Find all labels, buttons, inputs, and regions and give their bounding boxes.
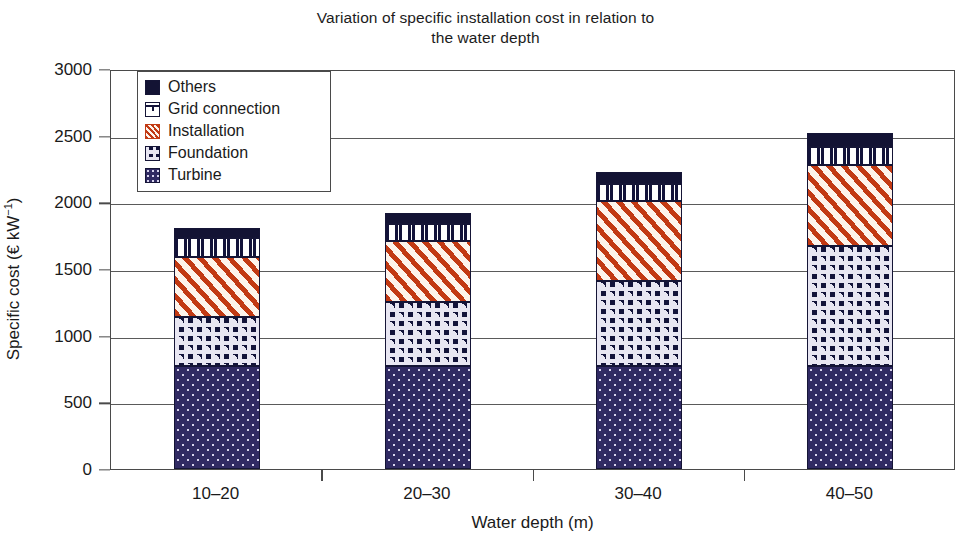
- x-tick-mark: [321, 470, 322, 481]
- legend-swatch-icon: [145, 102, 160, 117]
- legend-label: Others: [168, 79, 216, 95]
- y-tick-label: 2000: [54, 193, 92, 213]
- bar-segment-grid-connection: [807, 147, 893, 165]
- y-tick-label: 2500: [54, 127, 92, 147]
- y-tick-label: 1500: [54, 260, 92, 280]
- legend-swatch-icon: [145, 146, 160, 161]
- bar-segment-foundation: [385, 302, 471, 365]
- y-tick-mark: [99, 136, 110, 137]
- y-axis-title-exponent: −1: [2, 203, 14, 216]
- x-tick-label: 40–50: [826, 484, 873, 504]
- bar-segment-installation: [807, 165, 893, 246]
- y-tick-mark: [99, 336, 110, 337]
- y-axis-title-prefix: Specific cost (€ kW: [4, 216, 23, 361]
- y-tick-label: 0: [83, 460, 92, 480]
- legend-swatch-icon: [145, 124, 160, 139]
- bar-segment-turbine: [596, 366, 682, 469]
- bar-40-50: [807, 70, 893, 469]
- x-tick-label: 30–40: [614, 484, 661, 504]
- chart-title-line-1: Variation of specific installation cost …: [317, 9, 655, 26]
- bar-20-30: [385, 70, 471, 469]
- y-axis-title: Specific cost (€ kW−1): [2, 114, 24, 444]
- x-axis-title: Water depth (m): [110, 513, 955, 533]
- bar-segment-installation: [596, 201, 682, 281]
- legend-item-others[interactable]: Others: [145, 76, 323, 98]
- legend-label: Turbine: [168, 167, 222, 183]
- stacked-bar-chart: Variation of specific installation cost …: [0, 0, 971, 547]
- bar-segment-turbine: [174, 366, 260, 469]
- bar-segment-others: [174, 228, 260, 238]
- chart-title-line-2: the water depth: [0, 28, 971, 48]
- y-axis-title-suffix: ): [4, 197, 23, 203]
- bar-segment-foundation: [174, 317, 260, 366]
- y-tick-mark: [99, 269, 110, 270]
- y-tick-mark: [99, 203, 110, 204]
- bar-segment-turbine: [385, 366, 471, 469]
- x-tick-label: 20–30: [403, 484, 450, 504]
- y-tick-mark: [99, 403, 110, 404]
- legend-label: Foundation: [168, 145, 248, 161]
- legend-item-installation[interactable]: Installation: [145, 120, 323, 142]
- y-tick-label: 500: [64, 393, 92, 413]
- bar-30-40: [596, 70, 682, 469]
- legend-label: Grid connection: [168, 101, 280, 117]
- bar-segment-others: [385, 213, 471, 224]
- legend-swatch-icon: [145, 80, 160, 95]
- bar-segment-grid-connection: [596, 184, 682, 201]
- legend-item-foundation[interactable]: Foundation: [145, 142, 323, 164]
- legend-swatch-icon: [145, 168, 160, 183]
- bar-segment-installation: [385, 241, 471, 302]
- bar-segment-foundation: [596, 281, 682, 366]
- legend: OthersGrid connectionInstallationFoundat…: [137, 71, 331, 192]
- x-tick-mark: [533, 470, 534, 481]
- y-tick-label: 1000: [54, 327, 92, 347]
- bar-segment-others: [596, 172, 682, 184]
- bar-segment-grid-connection: [174, 238, 260, 257]
- bar-segment-foundation: [807, 246, 893, 366]
- legend-item-grid-connection[interactable]: Grid connection: [145, 98, 323, 120]
- legend-item-turbine[interactable]: Turbine: [145, 164, 323, 186]
- bar-segment-turbine: [807, 366, 893, 469]
- y-tick-label: 3000: [54, 60, 92, 80]
- chart-title: Variation of specific installation cost …: [0, 8, 971, 48]
- bar-segment-grid-connection: [385, 224, 471, 241]
- bar-segment-others: [807, 133, 893, 147]
- bar-segment-installation: [174, 257, 260, 317]
- x-tick-label: 10–20: [192, 484, 239, 504]
- y-tick-mark: [99, 469, 110, 470]
- x-tick-mark: [744, 470, 745, 481]
- y-tick-mark: [99, 69, 110, 70]
- legend-label: Installation: [168, 123, 245, 139]
